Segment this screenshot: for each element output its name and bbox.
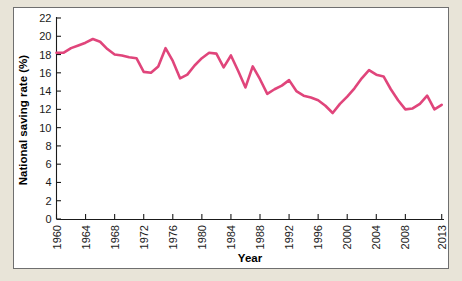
line-chart: 0246810121416182022 19601964196819721976… <box>0 0 462 281</box>
x-tick-label: 1976 <box>167 225 179 249</box>
x-tick-label: 1996 <box>312 225 324 249</box>
x-tick-label: 2013 <box>436 225 448 249</box>
x-tick-label: 2004 <box>370 225 382 249</box>
y-tick-label: 14 <box>39 85 51 97</box>
data-series-line <box>57 39 442 113</box>
y-tick-label: 22 <box>39 12 51 24</box>
x-tick-label: 1984 <box>225 225 237 249</box>
x-axis-title: Year <box>238 252 263 264</box>
y-tick-label: 2 <box>45 195 51 207</box>
x-tick-label: 1988 <box>254 225 266 249</box>
y-tick-label-group: 0246810121416182022 <box>39 12 51 225</box>
y-tick-label: 12 <box>39 103 51 115</box>
y-tick-label: 6 <box>45 158 51 170</box>
y-tick-label: 18 <box>39 49 51 61</box>
x-tick-label: 1980 <box>196 225 208 249</box>
y-tick-label: 0 <box>45 213 51 225</box>
y-tick-label: 4 <box>45 176 51 188</box>
x-tick-label: 2000 <box>341 225 353 249</box>
y-tick-label: 10 <box>39 122 51 134</box>
x-axis: 1960196419681972197619801984198819921996… <box>51 214 448 249</box>
x-tick-label-group: 1960196419681972197619801984198819921996… <box>51 225 448 249</box>
x-tick-label: 1968 <box>109 225 121 249</box>
x-tick-label: 1964 <box>80 225 92 249</box>
x-tick-label: 1992 <box>283 225 295 249</box>
y-tick-label: 20 <box>39 30 51 42</box>
x-tick-label: 2008 <box>399 225 411 249</box>
y-tick-group <box>57 18 62 219</box>
x-tick-label: 1960 <box>51 225 63 249</box>
x-tick-group <box>57 214 442 219</box>
x-tick-label: 1972 <box>138 225 150 249</box>
y-tick-label: 8 <box>45 140 51 152</box>
y-axis: 0246810121416182022 <box>39 12 61 225</box>
y-axis-title: National saving rate (%) <box>17 55 29 186</box>
y-tick-label: 16 <box>39 67 51 79</box>
